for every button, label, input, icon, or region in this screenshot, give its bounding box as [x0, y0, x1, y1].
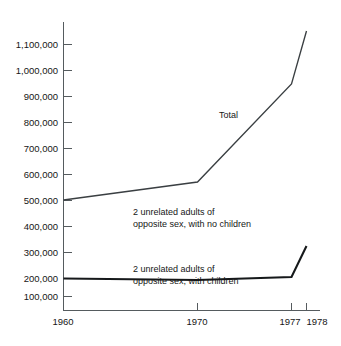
annotation-no-children-line-1: 2 unrelated adults of — [133, 207, 215, 217]
y-tick-label-0: 1,100,000 — [16, 39, 58, 50]
y-tick-label-7: 400,000 — [24, 221, 58, 232]
y-tick-label-5: 600,000 — [24, 169, 58, 180]
annotation-with-children: 2 unrelated adults of opposite sex, with… — [133, 264, 239, 286]
y-tick-label-10: 100,000 — [24, 291, 58, 302]
y-tick-label-6: 500,000 — [24, 195, 58, 206]
y-axis-ticks — [64, 45, 72, 297]
annotation-no-children: 2 unrelated adults of opposite sex, with… — [133, 207, 251, 229]
annotation-no-children-line-2: opposite sex, with no children — [133, 219, 251, 229]
y-tick-label-2: 900,000 — [24, 91, 58, 102]
x-axis-ticks — [198, 303, 307, 311]
x-tick-label-1977: 1977 — [279, 316, 300, 327]
annotation-with-children-line-2: opposite sex, with children — [133, 276, 239, 286]
y-tick-label-8: 300,000 — [24, 247, 58, 258]
y-tick-label-4: 700,000 — [24, 143, 58, 154]
x-tick-label-1978: 1978 — [306, 316, 327, 327]
x-axis-tick-labels: 1960 1970 1977 1978 — [52, 316, 327, 327]
series-line-total — [64, 31, 307, 200]
y-tick-label-9: 200,000 — [24, 273, 58, 284]
y-tick-label-1: 1,000,000 — [16, 65, 58, 76]
chart-canvas: 1,100,000 1,000,000 900,000 800,000 700,… — [0, 0, 341, 346]
x-tick-label-1970: 1970 — [186, 316, 207, 327]
series-label-total: Total — [219, 110, 238, 120]
y-tick-label-3: 800,000 — [24, 117, 58, 128]
line-chart: 1,100,000 1,000,000 900,000 800,000 700,… — [0, 0, 341, 346]
series-line-with-children — [64, 246, 307, 280]
x-tick-label-1960: 1960 — [52, 316, 73, 327]
annotation-with-children-line-1: 2 unrelated adults of — [133, 264, 215, 274]
y-axis-tick-labels: 1,100,000 1,000,000 900,000 800,000 700,… — [16, 39, 58, 302]
